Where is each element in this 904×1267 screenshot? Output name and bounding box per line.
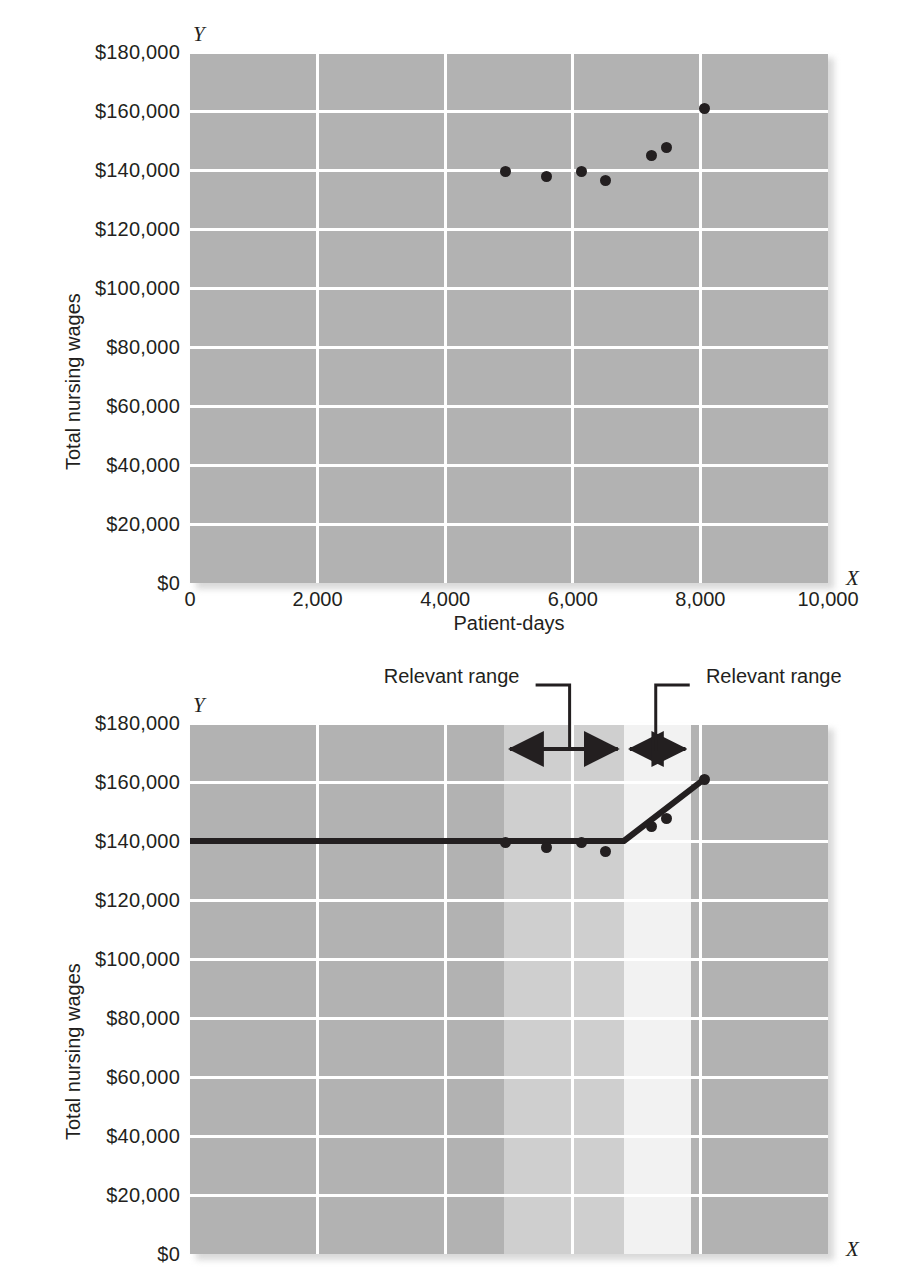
gridline-vertical [316, 723, 319, 1254]
y-axis-tick-label: $60,000 [0, 1066, 180, 1089]
y-axis-tick-label: $160,000 [0, 771, 180, 794]
y-axis-letter: Y [193, 693, 205, 718]
data-point [541, 171, 552, 182]
data-point [500, 166, 511, 177]
y-axis-tick-label: $60,000 [0, 395, 180, 418]
y-axis-tick-label: $80,000 [0, 336, 180, 359]
y-axis-tick-label: $140,000 [0, 159, 180, 182]
plot-area [190, 723, 828, 1254]
x-axis-tick-label: 2,000 [293, 588, 343, 611]
data-point [500, 837, 511, 848]
data-point [646, 821, 657, 832]
x-axis-title: Patient-days [453, 612, 564, 635]
y-axis-title: Total nursing wages [62, 963, 85, 1140]
gridline-horizontal [190, 464, 828, 467]
y-axis-tick-label: $40,000 [0, 1125, 180, 1148]
data-point [576, 166, 587, 177]
y-axis-tick-label: $80,000 [0, 1007, 180, 1030]
gridline-vertical [571, 723, 574, 1254]
data-point [699, 774, 710, 785]
gridline-horizontal [190, 1135, 828, 1138]
gridline-vertical [444, 52, 447, 583]
x-axis-letter: X [846, 566, 859, 591]
y-axis-tick-label: $20,000 [0, 1184, 180, 1207]
gridline-horizontal [190, 899, 828, 902]
y-axis-tick-label: $120,000 [0, 889, 180, 912]
y-axis-tick-label: $20,000 [0, 513, 180, 536]
x-axis-letter: X [846, 1237, 859, 1262]
gridline-horizontal [190, 287, 828, 290]
gridline-vertical [699, 52, 702, 583]
y-axis-tick-label: $0 [0, 572, 180, 595]
y-axis-tick-label: $40,000 [0, 454, 180, 477]
gridline-horizontal [190, 110, 828, 113]
plot-area [190, 52, 828, 583]
y-axis-tick-label: $100,000 [0, 277, 180, 300]
y-axis-letter: Y [193, 22, 205, 47]
data-point [661, 142, 672, 153]
gridline-horizontal [190, 781, 828, 784]
gridline-horizontal [190, 523, 828, 526]
x-axis-tick-label: 0 [184, 588, 195, 611]
data-point [541, 842, 552, 853]
x-axis-tick-label: 10,000 [797, 588, 858, 611]
y-axis-tick-label: $140,000 [0, 830, 180, 853]
y-axis-title: Total nursing wages [62, 293, 85, 470]
data-point [646, 150, 657, 161]
gridline-vertical [571, 52, 574, 583]
gridline-horizontal [190, 228, 828, 231]
y-axis-tick-label: $160,000 [0, 100, 180, 123]
gridline-horizontal [190, 1076, 828, 1079]
gridline-horizontal [190, 346, 828, 349]
gridline-horizontal [190, 1017, 828, 1020]
y-axis-tick-label: $0 [0, 1243, 180, 1266]
data-point [600, 175, 611, 186]
x-axis-tick-label: 6,000 [548, 588, 598, 611]
gridline-horizontal [190, 405, 828, 408]
y-axis-tick-label: $180,000 [0, 712, 180, 735]
annotation-relevant-range-right: Relevant range [706, 665, 842, 688]
shaded-band-relevant-range-2 [624, 723, 692, 1254]
y-axis-tick-label: $100,000 [0, 948, 180, 971]
figure-two-panel-cost-behavior: $0$20,000$40,000$60,000$80,000$100,000$1… [0, 0, 904, 1267]
gridline-horizontal [190, 1194, 828, 1197]
y-axis-tick-label: $180,000 [0, 41, 180, 64]
data-point [699, 103, 710, 114]
gridline-vertical [316, 52, 319, 583]
shaded-band-relevant-range-1 [504, 723, 624, 1254]
gridline-horizontal [190, 723, 828, 725]
x-axis-tick-label: 8,000 [675, 588, 725, 611]
annotation-relevant-range-left: Relevant range [384, 665, 520, 688]
gridline-horizontal [190, 958, 828, 961]
x-axis-tick-label: 4,000 [420, 588, 470, 611]
gridline-horizontal [190, 52, 828, 54]
gridline-vertical [444, 723, 447, 1254]
gridline-vertical [699, 723, 702, 1254]
y-axis-tick-label: $120,000 [0, 218, 180, 241]
